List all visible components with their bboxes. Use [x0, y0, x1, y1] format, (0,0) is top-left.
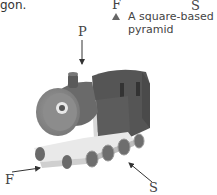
front-view-label: F — [5, 172, 14, 187]
plan-view-label: P — [78, 24, 87, 39]
side-view-label: S — [149, 180, 158, 195]
train-engine-illustration — [0, 0, 217, 195]
front-view-arrow — [12, 168, 40, 172]
